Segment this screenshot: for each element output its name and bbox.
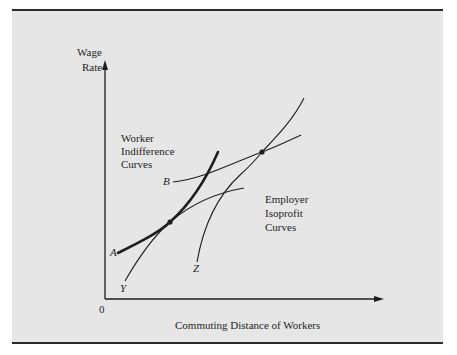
worker-label-line1: Worker: [121, 132, 154, 145]
chart-canvas: [0, 0, 457, 355]
y-axis-arrow-icon: [102, 60, 108, 70]
curve-y: [125, 188, 244, 281]
curve-z: [197, 98, 304, 262]
origin-label: 0: [99, 303, 105, 316]
curve-y-label: Y: [120, 282, 126, 295]
curve-z-label: Z: [193, 262, 199, 275]
worker-label-line2: Indifference: [121, 145, 175, 158]
employer-label-line1: Employer: [265, 193, 308, 206]
y-axis-label-line2: Rate: [82, 61, 102, 74]
employer-label-line3: Curves: [265, 221, 296, 234]
worker-label-line3: Curves: [121, 158, 152, 171]
curve-a-label: A: [110, 246, 117, 259]
x-axis-arrow-icon: [374, 296, 384, 302]
curve-b-label: B: [163, 175, 170, 188]
employer-label-line2: Isoprofit: [265, 207, 303, 220]
y-axis-label-line1: Wage: [77, 46, 102, 59]
x-axis-label: Commuting Distance of Workers: [175, 319, 320, 332]
tangency-point-b-z: [259, 149, 264, 154]
tangency-point-a-y: [167, 219, 172, 224]
curve-b: [173, 135, 301, 182]
